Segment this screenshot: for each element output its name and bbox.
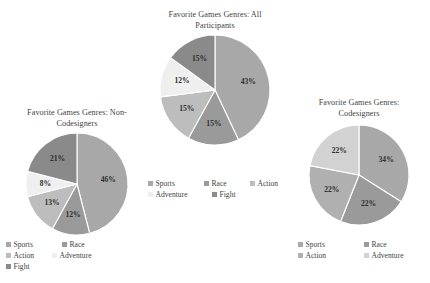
chart-title-non-codesigners: Favorite Games Genres: Non- Codesigners — [2, 108, 152, 129]
legend-non-codesigners: Sports Race Action Adventure Fight — [6, 239, 152, 272]
legend-item-label: Adventure — [372, 250, 404, 261]
legend-swatch-icon — [298, 253, 303, 258]
legend-swatch-icon — [212, 192, 217, 197]
legend-swatch-icon — [250, 181, 255, 186]
legend-item-label: Adventure — [156, 189, 188, 200]
legend-item[interactable]: Action — [298, 250, 364, 261]
legend-swatch-icon — [364, 242, 369, 247]
legend-swatch-icon — [298, 242, 303, 247]
legend-item[interactable]: Action — [6, 250, 52, 261]
chart-title-line-2: Codesigners — [2, 119, 152, 130]
legend-item[interactable]: Race — [62, 239, 108, 250]
pie-slice-label: 43% — [241, 77, 256, 86]
chart-panel-non-codesigners: Favorite Games Genres: Non- Codesigners … — [2, 108, 152, 235]
legend-item[interactable]: Adventure — [148, 189, 212, 200]
pie-svg-codesigners: 34%22%22%22% — [309, 125, 409, 225]
pie-chart-all-participants: 43%15%15%12%15% — [160, 35, 270, 145]
pie-slice-label: 13% — [44, 198, 59, 207]
pie-slice-label: 15% — [179, 104, 194, 113]
pie-slice-label: 8% — [40, 179, 51, 188]
pie-slice-label: 22% — [324, 185, 339, 194]
legend-item[interactable]: Adventure — [52, 250, 116, 261]
pie-svg-all-participants: 43%15%15%12%15% — [160, 35, 270, 145]
legend-item-label: Action — [306, 250, 327, 261]
legend-codesigners: Sports Race Action Adventure — [298, 239, 430, 261]
legend-item[interactable]: Race — [364, 239, 430, 250]
pie-slice-label: 22% — [361, 199, 376, 208]
chart-title-line-1: Favorite Games Genres: Non- — [2, 108, 152, 119]
legend-item[interactable]: Adventure — [364, 250, 430, 261]
legend-item[interactable]: Fight — [212, 189, 258, 200]
pie-slice-label: 15% — [206, 119, 221, 128]
pie-slice-label: 34% — [379, 155, 394, 164]
legend-swatch-icon — [52, 253, 57, 258]
legend-item-label: Race — [372, 239, 387, 250]
pie-charts-figure: Favorite Games Genres: All Participants … — [0, 0, 430, 283]
legend-item-label: Race — [212, 178, 227, 189]
legend-item-label: Sports — [14, 239, 33, 250]
legend-item[interactable]: Sports — [148, 178, 204, 189]
legend-item-label: Adventure — [60, 250, 92, 261]
pie-slice-label: 12% — [174, 76, 189, 85]
chart-title-line-1: Favorite Games Genres: — [288, 98, 430, 109]
legend-swatch-icon — [204, 181, 209, 186]
pie-svg-non-codesigners: 46%12%13%8%21% — [26, 133, 128, 235]
legend-item-label: Action — [258, 178, 279, 189]
legend-item-label: Fight — [220, 189, 236, 200]
legend-item-label: Action — [14, 250, 35, 261]
chart-panel-all-participants: Favorite Games Genres: All Participants … — [137, 10, 293, 145]
legend-swatch-icon — [6, 264, 11, 269]
pie-slice-label: 15% — [192, 54, 207, 63]
legend-swatch-icon — [364, 253, 369, 258]
chart-title-line-1: Favorite Games Genres: All — [137, 10, 293, 21]
legend-item[interactable]: Sports — [6, 239, 62, 250]
legend-item-label: Fight — [14, 261, 30, 272]
legend-all-participants: Sports Race Action Adventure Fight — [148, 178, 296, 200]
legend-swatch-icon — [6, 253, 11, 258]
chart-panel-codesigners: Favorite Games Genres: Codesigners 34%22… — [288, 98, 430, 225]
pie-chart-non-codesigners: 46%12%13%8%21% — [26, 133, 128, 235]
chart-title-codesigners: Favorite Games Genres: Codesigners — [288, 98, 430, 119]
legend-item[interactable]: Fight — [6, 261, 52, 272]
legend-item-label: Sports — [306, 239, 325, 250]
pie-slice-label: 22% — [332, 146, 347, 155]
chart-title-line-2: Codesigners — [288, 109, 430, 120]
legend-item-label: Race — [70, 239, 85, 250]
pie-slice-label: 46% — [101, 175, 116, 184]
legend-item[interactable]: Sports — [298, 239, 364, 250]
chart-title-all-participants: Favorite Games Genres: All Participants — [137, 10, 293, 31]
pie-slice-label: 21% — [50, 154, 65, 163]
pie-chart-codesigners: 34%22%22%22% — [309, 125, 409, 225]
chart-title-line-2: Participants — [137, 21, 293, 32]
legend-swatch-icon — [6, 242, 11, 247]
pie-slice-label: 12% — [65, 210, 80, 219]
legend-swatch-icon — [62, 242, 67, 247]
legend-item[interactable]: Race — [204, 178, 250, 189]
legend-item-label: Sports — [156, 178, 175, 189]
